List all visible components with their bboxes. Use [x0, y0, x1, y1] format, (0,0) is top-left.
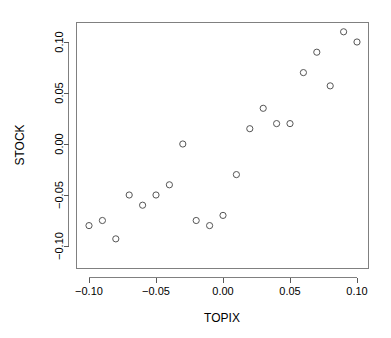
data-point-marker — [180, 141, 186, 147]
data-point-marker — [274, 121, 280, 127]
data-points — [86, 29, 360, 242]
y-tick-label: 0.00 — [53, 133, 65, 154]
y-tick-label: −0.05 — [53, 181, 65, 209]
data-point-marker — [354, 39, 360, 45]
x-axis-title: TOPIX — [204, 311, 240, 325]
x-tick-label: −0.10 — [75, 285, 103, 297]
y-tick-label: −0.10 — [53, 232, 65, 260]
data-point-marker — [300, 70, 306, 76]
x-tick-label: 0.10 — [346, 285, 367, 297]
data-point-marker — [113, 236, 119, 242]
data-point-marker — [99, 217, 105, 223]
data-point-marker — [126, 192, 132, 198]
chart-canvas: −0.10−0.050.000.050.10 −0.10−0.050.000.0… — [0, 0, 391, 338]
scatter-plot-figure: −0.10−0.050.000.050.10 −0.10−0.050.000.0… — [0, 0, 391, 338]
data-point-marker — [153, 192, 159, 198]
data-point-marker — [207, 223, 213, 229]
y-axis-title: STOCK — [13, 124, 27, 165]
data-point-marker — [233, 172, 239, 178]
data-point-marker — [287, 121, 293, 127]
data-point-marker — [220, 212, 226, 218]
data-point-marker — [260, 105, 266, 111]
data-point-marker — [247, 126, 253, 132]
data-point-marker — [193, 217, 199, 223]
y-axis: −0.10−0.050.000.050.10 — [53, 31, 68, 260]
data-point-marker — [140, 202, 146, 208]
x-axis: −0.10−0.050.000.050.10 — [75, 278, 368, 297]
data-point-marker — [86, 223, 92, 229]
data-point-marker — [341, 29, 347, 35]
data-point-marker — [166, 182, 172, 188]
plot-area-border — [77, 23, 369, 269]
y-tick-label: 0.05 — [53, 82, 65, 103]
data-point-marker — [327, 83, 333, 89]
y-tick-label: 0.10 — [53, 31, 65, 52]
x-tick-label: 0.05 — [279, 285, 300, 297]
x-tick-label: −0.05 — [142, 285, 170, 297]
x-tick-label: 0.00 — [212, 285, 233, 297]
data-point-marker — [314, 49, 320, 55]
